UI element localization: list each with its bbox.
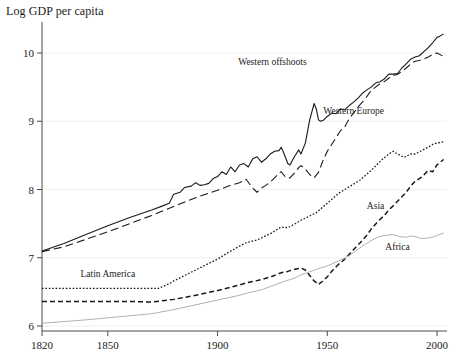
x-tick-label-1900: 1900 xyxy=(207,339,230,351)
x-tick-label-2000: 2000 xyxy=(426,339,449,351)
chart-plot: 67891018201850190019502000Western offsho… xyxy=(0,0,469,364)
series-line-western-europe xyxy=(42,53,444,252)
y-tick-label-8: 8 xyxy=(29,184,35,196)
y-tick-label-7: 7 xyxy=(29,252,35,264)
series-label-africa: Africa xyxy=(385,242,410,252)
series-label-latin-america: Latin America xyxy=(81,269,136,279)
series-labels: Western offshootsWestern EuropeLatin Ame… xyxy=(81,57,411,279)
series-label-asia: Asia xyxy=(367,201,385,211)
series-line-asia xyxy=(42,159,444,302)
gridlines xyxy=(42,53,447,326)
series-group xyxy=(42,34,444,323)
y-tick-label-6: 6 xyxy=(29,320,35,332)
x-tick-label-1950: 1950 xyxy=(316,339,339,351)
y-tick-label-9: 9 xyxy=(29,115,35,127)
series-label-western-offshoots: Western offshoots xyxy=(238,57,307,67)
series-label-western-europe: Western Europe xyxy=(323,106,384,116)
x-tick-label-1850: 1850 xyxy=(97,339,120,351)
y-tick-label-10: 10 xyxy=(23,47,35,59)
chart-container: Log GDP per capita 678910182018501900195… xyxy=(0,0,469,364)
x-tick-label-1820: 1820 xyxy=(31,339,54,351)
